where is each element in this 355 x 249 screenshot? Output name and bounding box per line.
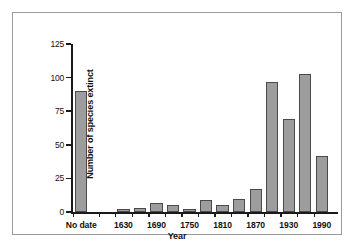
y-tick [66, 211, 71, 213]
bar [183, 209, 195, 212]
y-tick-label: 100 [50, 73, 64, 83]
bar [250, 189, 262, 212]
x-tick [231, 212, 232, 217]
x-tick [264, 212, 265, 217]
y-tick-label: 25 [55, 173, 64, 183]
x-tick-label: 1870 [246, 220, 265, 230]
y-tick-label: 125 [50, 39, 64, 49]
chart-frame: Number of species extinct 0255075100125 … [12, 12, 342, 235]
x-tick-label: 1630 [114, 220, 133, 230]
y-tick [66, 77, 71, 79]
x-tick [280, 212, 281, 217]
bar [200, 200, 212, 212]
x-tick [73, 212, 74, 217]
x-tick-label: 1930 [279, 220, 298, 230]
y-tick-label: 75 [55, 106, 64, 116]
x-tick-label: No date [66, 220, 97, 230]
x-tick [314, 212, 315, 217]
chart-figure: Number of species extinct 0255075100125 … [0, 0, 355, 249]
bar [233, 199, 245, 212]
bar [299, 74, 311, 212]
x-tick [132, 212, 133, 217]
x-tick [214, 212, 215, 217]
x-tick [198, 212, 199, 217]
x-tick [247, 212, 248, 217]
x-tick-label: 1990 [312, 220, 331, 230]
x-tick [165, 212, 166, 217]
y-tick-label: 50 [55, 140, 64, 150]
x-tick-label: 1690 [147, 220, 166, 230]
bar [75, 91, 87, 212]
x-tick [181, 212, 182, 217]
x-tick-label: 1810 [213, 220, 232, 230]
x-tick [115, 212, 116, 217]
bar [134, 208, 146, 212]
y-axis-line [71, 44, 73, 212]
x-axis-title: Year [13, 231, 341, 241]
bar [167, 205, 179, 212]
plot-area: 0255075100125 No date1630169017501810187… [71, 44, 338, 212]
x-tick [99, 212, 100, 217]
bar [283, 119, 295, 212]
x-tick [297, 212, 298, 217]
bar [316, 156, 328, 212]
y-tick [66, 178, 71, 180]
y-tick [66, 144, 71, 146]
y-tick-label: 0 [59, 207, 64, 217]
bar [117, 209, 129, 212]
x-tick-label: 1750 [180, 220, 199, 230]
bar [266, 82, 278, 212]
x-tick [148, 212, 149, 217]
bar [150, 203, 162, 212]
bar [216, 205, 228, 212]
y-tick [66, 110, 71, 112]
y-tick [66, 43, 71, 45]
